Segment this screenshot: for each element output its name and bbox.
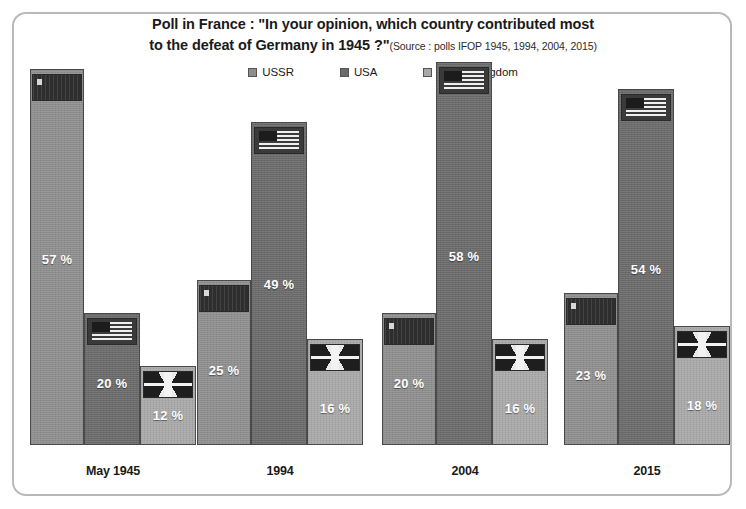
uk-flag-icon (310, 344, 360, 371)
usa-flag-icon (621, 94, 671, 121)
bar-value-label: 20 % (85, 376, 139, 391)
bar-value-label: 12 % (141, 408, 195, 423)
x-axis-label-1994: 1994 (197, 464, 363, 478)
chart-plot-area: 57 %20 %12 %May 194525 %49 %16 %199420 %… (12, 12, 732, 496)
bar-group-may-1945: 57 %20 %12 % (30, 65, 196, 445)
bar-value-label: 49 % (252, 277, 306, 292)
x-axis-label-may-1945: May 1945 (30, 464, 196, 478)
ussr-flag-icon (566, 298, 616, 325)
bar-ussr-2015[interactable]: 23 % (564, 293, 618, 445)
bar-uk-2015[interactable]: 18 % (674, 326, 730, 445)
bar-value-label: 57 % (31, 252, 83, 267)
bar-value-label: 16 % (308, 401, 362, 416)
bar-usa-2004[interactable]: 58 % (436, 62, 492, 445)
ussr-flag-icon (384, 318, 434, 345)
bar-usa-1994[interactable]: 49 % (251, 122, 307, 445)
bar-value-label: 20 % (383, 376, 435, 391)
bar-group-1994: 25 %49 %16 % (197, 65, 363, 445)
x-axis-label-2015: 2015 (564, 464, 730, 478)
uk-flag-icon (677, 331, 727, 358)
usa-flag-icon (439, 67, 489, 94)
uk-flag-icon (495, 344, 545, 371)
bar-uk-1994[interactable]: 16 % (307, 339, 363, 445)
usa-flag-icon (87, 318, 137, 345)
bar-uk-may-1945[interactable]: 12 % (140, 366, 196, 445)
ussr-flag-icon (32, 74, 82, 101)
bar-value-label: 58 % (437, 249, 491, 264)
bar-value-label: 54 % (619, 262, 673, 277)
bar-usa-may-1945[interactable]: 20 % (84, 313, 140, 445)
bar-group-2015: 23 %54 %18 % (564, 65, 730, 445)
bar-group-2004: 20 %58 %16 % (382, 65, 548, 445)
x-axis-label-2004: 2004 (382, 464, 548, 478)
ussr-flag-icon (199, 285, 249, 312)
bar-value-label: 23 % (565, 368, 617, 383)
uk-flag-icon (143, 371, 193, 398)
bar-value-label: 16 % (493, 401, 547, 416)
bar-ussr-may-1945[interactable]: 57 % (30, 69, 84, 445)
bar-ussr-1994[interactable]: 25 % (197, 280, 251, 445)
bar-value-label: 25 % (198, 363, 250, 378)
bar-value-label: 18 % (675, 398, 729, 413)
bar-uk-2004[interactable]: 16 % (492, 339, 548, 445)
bar-usa-2015[interactable]: 54 % (618, 89, 674, 445)
usa-flag-icon (254, 127, 304, 154)
bar-ussr-2004[interactable]: 20 % (382, 313, 436, 445)
